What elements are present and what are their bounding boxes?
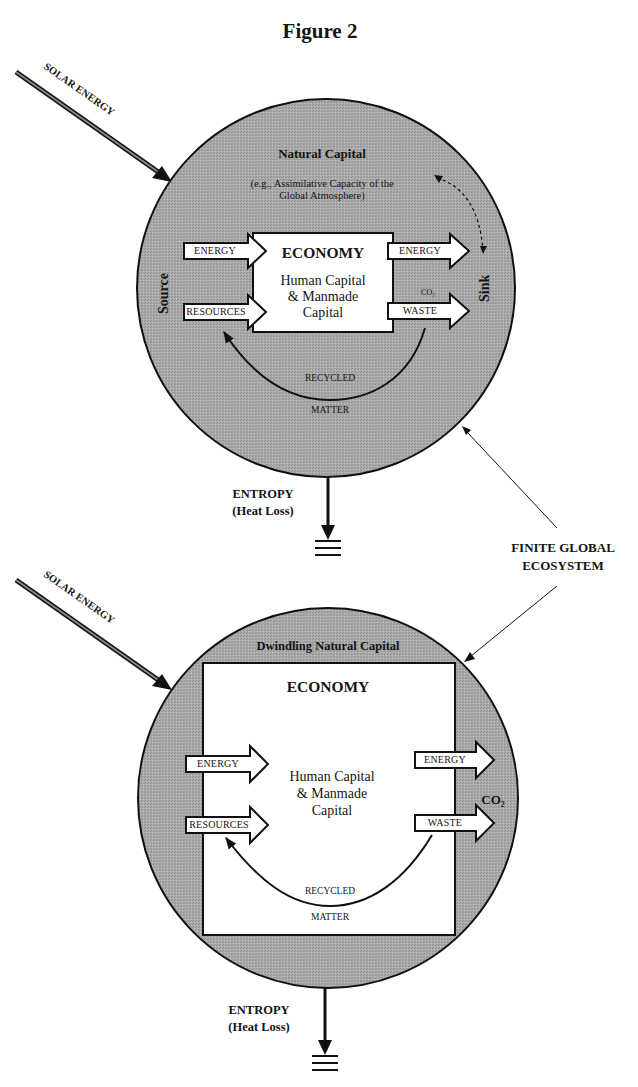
- callout-line-bottom: [471, 586, 557, 656]
- natural-capital-title: Natural Capital: [278, 146, 366, 161]
- solar-energy-arrow: [16, 72, 172, 182]
- dwindling-natural-capital-title: Dwindling Natural Capital: [256, 639, 400, 653]
- solar-energy-label-bottom: SOLAR ENERGY: [42, 569, 117, 626]
- finite-label-line2: ECOSYSTEM: [522, 558, 604, 573]
- svg-text:RESOURCES: RESOURCES: [189, 819, 249, 830]
- svg-text:ENERGY: ENERGY: [424, 754, 466, 765]
- finite-global-ecosystem-callout: FINITE GLOBAL ECOSYSTEM: [462, 426, 615, 662]
- sink-label: Sink: [477, 275, 492, 302]
- entropy-label-bottom: ENTROPY: [228, 1003, 289, 1017]
- svg-text:WASTE: WASTE: [403, 305, 437, 316]
- economy-line3: Capital: [303, 305, 344, 320]
- recycled-label: RECYCLED: [305, 373, 355, 383]
- co2-label-bottom: CO₂: [481, 792, 505, 807]
- heat-loss-label-bottom: (Heat Loss): [228, 1020, 289, 1034]
- economy-line1-bottom: Human Capital: [289, 769, 374, 784]
- svg-text:ENERGY: ENERGY: [194, 245, 236, 256]
- figure-canvas: Figure 2 SOLAR ENERGY Natural Capital (e…: [0, 0, 638, 1087]
- finite-label-line1: FINITE GLOBAL: [511, 540, 615, 555]
- arrowhead-icon: [321, 525, 335, 540]
- svg-text:WASTE: WASTE: [428, 817, 462, 828]
- economy-title-bottom: ECONOMY: [287, 678, 370, 695]
- ground-icon-bottom: [312, 1056, 338, 1070]
- solar-energy-label: SOLAR ENERGY: [42, 61, 117, 118]
- heat-loss-label: (Heat Loss): [232, 504, 293, 518]
- solar-energy-arrow-bottom: [16, 580, 172, 690]
- economy-line3-bottom: Capital: [312, 803, 353, 818]
- source-label: Source: [156, 273, 171, 314]
- matter-label-bottom: MATTER: [311, 912, 350, 922]
- economy-line2-bottom: & Manmade: [297, 786, 367, 801]
- ground-icon: [315, 541, 341, 555]
- arrowhead-icon: [462, 426, 471, 435]
- svg-text:ENERGY: ENERGY: [399, 245, 441, 256]
- top-diagram: SOLAR ENERGY Natural Capital (e.g., Assi…: [16, 61, 515, 555]
- economy-line1: Human Capital: [280, 273, 365, 288]
- figure-svg: Figure 2 SOLAR ENERGY Natural Capital (e…: [0, 0, 638, 1087]
- entropy-label: ENTROPY: [232, 487, 293, 501]
- natural-capital-note-line1: (e.g., Assimilative Capacity of the: [250, 178, 394, 190]
- svg-text:RESOURCES: RESOURCES: [186, 306, 246, 317]
- bottom-diagram: SOLAR ENERGY Dwindling Natural Capital E…: [16, 569, 518, 1070]
- svg-text:ENERGY: ENERGY: [197, 758, 239, 769]
- economy-line2: & Manmade: [288, 289, 358, 304]
- arrowhead-icon: [318, 1040, 332, 1055]
- figure-title: Figure 2: [283, 19, 358, 43]
- economy-title: ECONOMY: [282, 244, 365, 261]
- co2-label: CO₂: [421, 288, 435, 297]
- natural-capital-note-line2: Global Atmosphere): [279, 190, 365, 202]
- recycled-label-bottom: RECYCLED: [305, 886, 355, 896]
- matter-label: MATTER: [311, 405, 350, 415]
- callout-line-top: [467, 432, 557, 528]
